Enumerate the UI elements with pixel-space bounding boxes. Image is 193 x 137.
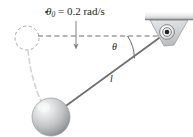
ceiling-plate — [145, 12, 193, 20]
angle-arc — [128, 36, 135, 59]
angle-label: θ — [112, 42, 117, 52]
angular-velocity-units: rad/s — [81, 5, 105, 17]
bob-highlight — [37, 103, 50, 113]
equals-sign: = — [55, 5, 67, 17]
pendulum-diagram-canvas — [0, 0, 193, 137]
rotation-direction-arrow — [73, 21, 78, 50]
pendulum-bob — [32, 98, 70, 136]
angular-velocity-value: 0.2 — [67, 5, 81, 17]
ghost-ball-outline — [15, 26, 39, 50]
pendulum-rod — [52, 33, 166, 116]
pivot-pin — [165, 30, 170, 35]
pendulum-figure: θ 0 = 0.2 rad/s θ l — [0, 0, 193, 137]
angular-velocity-label: θ 0 = 0.2 rad/s — [46, 6, 105, 19]
rod-length-label: l — [110, 74, 113, 84]
time-derivative-dot — [46, 11, 48, 13]
